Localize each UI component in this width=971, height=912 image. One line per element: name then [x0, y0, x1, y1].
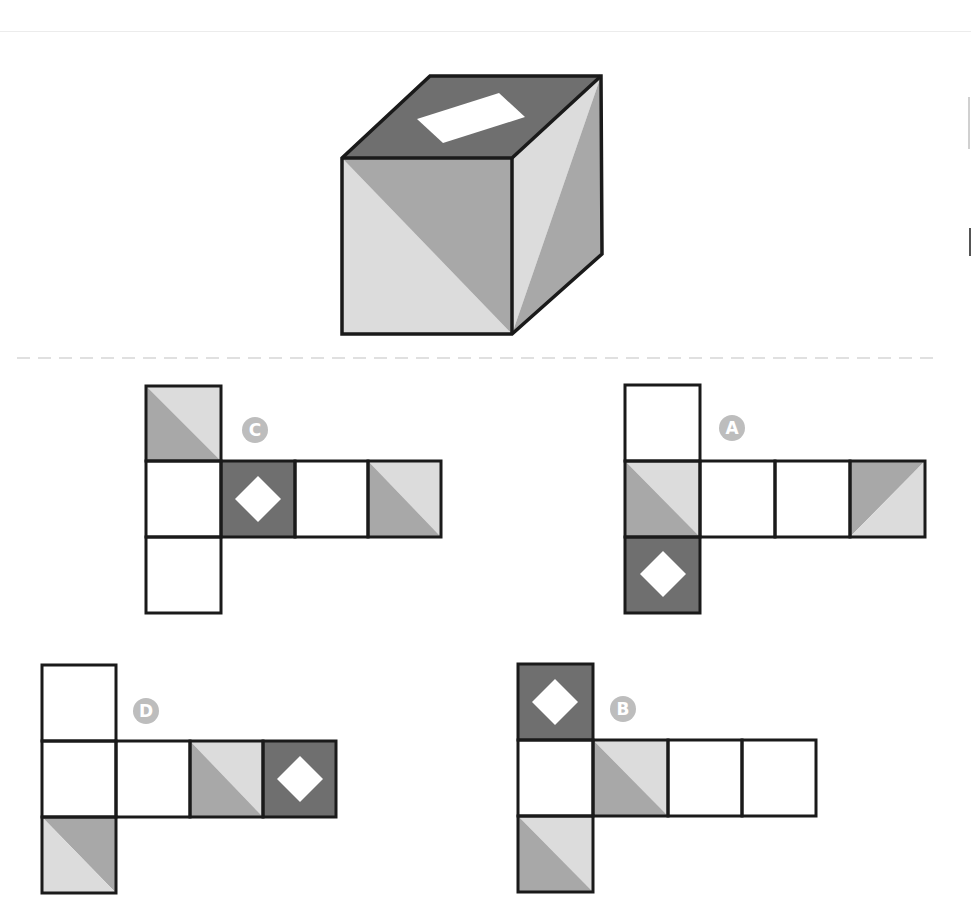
- option-letter: A: [725, 418, 739, 438]
- option-d-net[interactable]: [42, 665, 336, 893]
- option-letter: C: [249, 420, 261, 440]
- reference-cube: [342, 76, 602, 334]
- option-b-net[interactable]: [518, 664, 816, 892]
- option-a-net[interactable]: [625, 385, 925, 613]
- option-letter: B: [617, 699, 630, 719]
- option-letter: D: [139, 701, 153, 721]
- option-label-b[interactable]: B: [610, 696, 636, 722]
- option-label-c[interactable]: C: [242, 417, 268, 443]
- puzzle-canvas: C A D B: [0, 0, 971, 912]
- option-label-a[interactable]: A: [719, 415, 745, 441]
- option-label-d[interactable]: D: [133, 698, 159, 724]
- option-c-net[interactable]: [146, 386, 441, 613]
